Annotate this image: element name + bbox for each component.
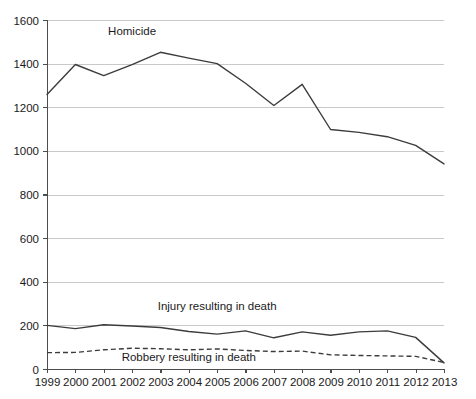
chart-canvas: 02004006008001000120014001600 1999200020… — [0, 0, 476, 399]
y-tick-label: 800 — [20, 189, 39, 201]
x-tick-label: 2001 — [91, 376, 117, 388]
line-chart: 02004006008001000120014001600 1999200020… — [0, 0, 476, 399]
y-tick-label: 400 — [20, 276, 39, 288]
y-tick-label: 0 — [33, 364, 39, 376]
series-annotation-label: Homicide — [108, 25, 156, 37]
series-annotation-label: Robbery resulting in death — [122, 351, 256, 363]
x-tick-label: 2012 — [403, 376, 429, 388]
y-tick-label: 1600 — [13, 15, 39, 27]
series-annotation-label: Injury resulting in death — [158, 300, 277, 312]
x-tick-label: 2003 — [148, 376, 174, 388]
x-tick-label: 2013 — [432, 376, 458, 388]
x-tick-label: 2005 — [205, 376, 231, 388]
y-tick-marks-group — [43, 21, 47, 370]
y-tick-labels-group: 02004006008001000120014001600 — [13, 15, 39, 376]
x-tick-label: 1999 — [35, 376, 61, 388]
series-annotations-group: HomicideInjury resulting in deathRobbery… — [108, 25, 276, 362]
y-tick-label: 600 — [20, 233, 39, 245]
x-tick-label: 2000 — [63, 376, 89, 388]
x-tick-label: 2011 — [375, 376, 400, 388]
x-tick-label: 2007 — [262, 376, 288, 388]
x-tick-label: 2002 — [120, 376, 146, 388]
y-tick-label: 1400 — [13, 58, 39, 70]
y-tick-label: 1200 — [13, 102, 39, 114]
x-tick-label: 2006 — [233, 376, 259, 388]
x-tick-label: 2010 — [347, 376, 373, 388]
gridlines-group — [47, 21, 444, 370]
x-tick-label: 2004 — [176, 376, 202, 388]
x-tick-labels-group: 1999200020012002200320042005200620072008… — [35, 376, 458, 388]
y-tick-label: 1000 — [13, 145, 39, 157]
x-tick-label: 2008 — [290, 376, 316, 388]
x-tick-label: 2009 — [318, 376, 344, 388]
series-paths-group — [47, 52, 444, 363]
y-tick-label: 200 — [20, 320, 39, 332]
